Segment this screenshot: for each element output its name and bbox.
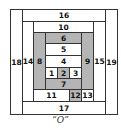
piece-7: 7 xyxy=(45,78,82,90)
piece-13: 13 xyxy=(81,89,94,102)
piece-19: 19 xyxy=(105,9,118,115)
piece-15: 15 xyxy=(93,21,106,102)
piece-9: 9 xyxy=(81,32,94,90)
piece-17: 17 xyxy=(22,101,106,115)
quilt-block-diagram: 18 19 16 17 14 15 10 11 12 13 8 9 6 5 4 … xyxy=(0,0,121,128)
diagram-caption: “O” xyxy=(0,115,121,125)
piece-11: 11 xyxy=(33,89,70,102)
